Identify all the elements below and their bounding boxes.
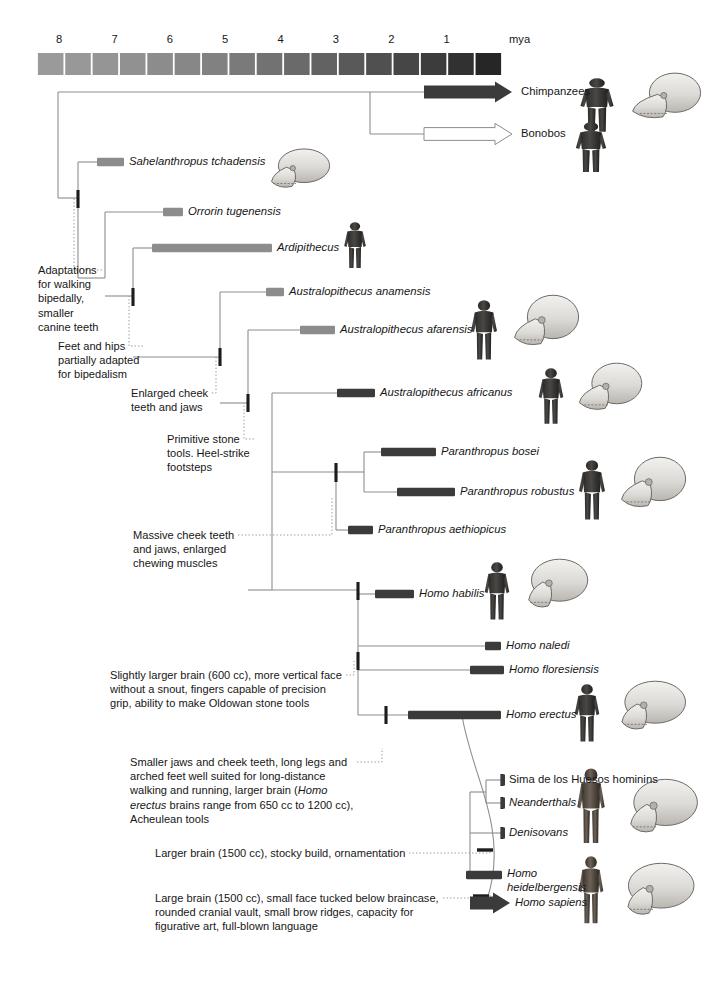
- axis-tick-4-mya: 4: [268, 33, 294, 45]
- leg-right: [498, 593, 504, 619]
- orbit: [603, 383, 609, 389]
- leg-left: [580, 715, 586, 741]
- specimen-skull-skull-homo: [529, 559, 588, 607]
- specimen-body: [344, 222, 366, 268]
- annotation-primitive-stone-tools: Primitive stone tools. Heel-strike foots…: [167, 432, 250, 475]
- annotation-smaller-jaws-long-legs: Smaller jaws and cheek teeth, long legs …: [130, 755, 353, 826]
- taxon-bar-australopithecus-africanus: [337, 389, 375, 397]
- head: [585, 856, 597, 868]
- specimen-body: [575, 684, 599, 741]
- torso: [583, 471, 602, 492]
- head: [586, 460, 598, 471]
- axis-tick-1-mya: 1: [434, 33, 460, 45]
- taxon-bar-homo-erectus: [408, 711, 501, 719]
- axis-tick-8-mya: 8: [46, 33, 72, 45]
- taxon-label-bonobos: Bonobos: [521, 127, 566, 141]
- torso: [578, 695, 596, 716]
- annotation-larger-brain-stocky: Larger brain (1500 cc), stocky build, or…: [155, 846, 405, 860]
- leg-right: [592, 809, 598, 843]
- axis-tick-2-mya: 2: [378, 33, 404, 45]
- taxon-label-homo-sapiens: Homo sapiens: [515, 896, 587, 910]
- specimen-skull-skull-homo: [622, 681, 686, 729]
- leg-right: [485, 332, 491, 359]
- leg-left: [583, 149, 590, 172]
- annotation-feet-and-hips: Feet and hips partially adapted for bipe…: [58, 339, 139, 382]
- leg-left: [490, 593, 496, 619]
- axis-tick-3-mya: 3: [323, 33, 349, 45]
- specimen-skull-skull-ape: [633, 73, 701, 118]
- axis-tick-7-mya: 7: [102, 33, 128, 45]
- leg-left: [477, 332, 483, 359]
- head: [478, 300, 490, 311]
- leader-line-smaller-jaws-long-legs: [357, 748, 382, 762]
- annotation-large-brain-small-face: Large brain (1500 cc), small face tucked…: [155, 891, 439, 934]
- taxon-bar-sahelanthropus-tchadensis: [97, 158, 124, 166]
- taxon-label-paranthropus-bosei: Paranthropus bosei: [441, 445, 539, 459]
- specimen-skull-skull-austral: [515, 295, 579, 344]
- leader-line-enlarged-cheek-teeth: [212, 357, 216, 393]
- leg-right: [598, 107, 606, 132]
- taxon-label-homo-floresiensis: Homo floresiensis: [509, 663, 599, 677]
- taxon-label-orrorin-tugenensis: Orrorin tugenensis: [188, 205, 281, 219]
- torso: [488, 573, 506, 594]
- timeline-band: [65, 53, 91, 75]
- taxon-label-australopithecus-anamensis: Australopithecus anamensis: [289, 285, 430, 299]
- phylogeny-canvas: [0, 0, 721, 984]
- specimen-body: [579, 460, 605, 519]
- torso: [580, 131, 602, 149]
- taxon-bar-ardipithecus: [152, 244, 272, 252]
- orbit: [650, 802, 657, 809]
- leg-right: [593, 492, 599, 519]
- taxon-bar-neanderthals: [501, 798, 505, 809]
- hominin-phylogeny-figure: 87654321mya ChimpanzeesBonobosSahelanthr…: [0, 0, 721, 984]
- timeline-band: [448, 53, 474, 75]
- orbit: [640, 702, 647, 709]
- timeline-band: [229, 53, 255, 75]
- timeline-band: [175, 53, 201, 75]
- leader-line-slightly-larger-brain: [346, 661, 354, 675]
- head: [491, 562, 503, 572]
- specimen-skull-skull-robust: [622, 457, 686, 506]
- annotation-slightly-larger-brain: Slightly larger brain (600 cc), more ver…: [110, 668, 342, 711]
- leg-right: [552, 398, 558, 424]
- taxon-label-australopithecus-africanus: Australopithecus africanus: [380, 386, 513, 400]
- timeline-band: [339, 53, 365, 75]
- timeline-band: [393, 53, 419, 75]
- taxon-bar-paranthropus-aethiopicus: [348, 526, 373, 534]
- timeline-band: [38, 53, 64, 75]
- torso: [542, 378, 560, 398]
- timeline-band: [93, 53, 119, 75]
- taxon-bar-orrorin-tugenensis: [163, 208, 183, 216]
- axis-tick-6-mya: 6: [157, 33, 183, 45]
- orbit: [546, 580, 553, 587]
- taxon-bar-denisovans: [501, 828, 505, 839]
- timeline-band: [421, 53, 447, 75]
- taxon-label-denisovans: Denisovans: [509, 826, 568, 840]
- timeline-bands: [38, 53, 501, 75]
- head: [589, 78, 605, 88]
- taxon-bar-homo-floresiensis: [470, 666, 504, 674]
- specimen-body: [539, 368, 563, 423]
- specimen-skull-skull-austral: [579, 363, 641, 409]
- taxon-label-homo-erectus: Homo erectus: [506, 708, 576, 722]
- taxon-label-sima-de-los-huesos-hominins: Sima de los Huesos hominins: [509, 773, 658, 787]
- taxon-label-homo-heidelbergensis: Homoheidelbergensis: [507, 867, 586, 894]
- axis-unit-label: mya: [509, 33, 530, 45]
- leg-right: [356, 247, 361, 268]
- taxon-label-homo-habilis: Homo habilis: [419, 587, 484, 601]
- head: [581, 684, 593, 694]
- taxon-bar-sima-de-los-huesos-hominins: [501, 775, 505, 786]
- head: [584, 122, 598, 131]
- head: [545, 368, 557, 378]
- leg-right: [592, 149, 599, 172]
- leg-left: [544, 398, 550, 424]
- axis-tick-5-mya: 5: [212, 33, 238, 45]
- annotation-adaptations-bipedal-walking: Adaptations for walking bipedally, small…: [38, 263, 98, 334]
- orbit: [646, 885, 653, 892]
- leader-line-massive-cheek-teeth: [238, 497, 332, 535]
- orbit: [645, 479, 652, 486]
- orbit: [290, 166, 295, 171]
- timeline-band: [147, 53, 173, 75]
- taxon-label-neanderthals: Neanderthals: [509, 796, 576, 810]
- torso: [347, 230, 363, 247]
